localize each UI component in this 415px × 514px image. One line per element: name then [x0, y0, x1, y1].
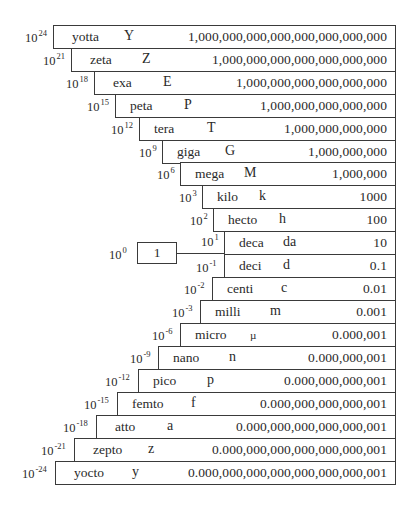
prefix-symbol: h [279, 211, 286, 227]
prefix-row-giga: gigaG1,000,000,000 [162, 140, 396, 164]
unity-box: 1 [137, 242, 177, 264]
exponent-base: 10 [152, 329, 165, 343]
prefix-row-deci: decid0.1 [224, 254, 396, 278]
prefix-name: kilo [217, 189, 238, 205]
prefix-symbol: y [132, 464, 139, 480]
prefix-value: 100 [366, 212, 387, 228]
exponent-power: 3 [193, 188, 197, 198]
prefix-value: 10 [373, 235, 387, 251]
prefix-name: deci [239, 258, 262, 274]
prefix-name: nano [173, 350, 199, 366]
exponent-power: -3 [186, 303, 193, 313]
prefix-value: 1,000,000,000 [308, 144, 387, 160]
exponent-label-micro: 10-6 [152, 326, 173, 344]
exponent-label-zepto: 10-21 [41, 441, 66, 459]
prefix-row-peta: petaP1,000,000,000,000,000 [115, 94, 396, 118]
exponent-base: 10 [157, 168, 170, 182]
exponent-base: 10 [139, 146, 152, 160]
prefix-symbol: Y [124, 28, 134, 44]
prefix-row-hecto: hectoh100 [213, 208, 396, 232]
prefix-row-deca: decada10 [224, 231, 396, 255]
prefix-name: micro [195, 327, 227, 343]
prefix-row-tera: teraT1,000,000,000,000 [139, 117, 396, 141]
exponent-label-exa: 1018 [66, 74, 88, 92]
prefix-name: milli [215, 304, 241, 320]
exponent-power: 21 [57, 51, 66, 61]
prefix-symbol: G [225, 143, 235, 159]
prefix-name: deca [239, 235, 264, 251]
prefix-symbol: c [281, 280, 287, 296]
prefix-symbol: P [184, 97, 192, 113]
exponent-label-mega: 106 [157, 165, 175, 183]
si-prefix-diagram: 100 1 yottaY1,000,000,000,000,000,000,00… [0, 0, 415, 514]
prefix-name: mega [195, 166, 224, 182]
exponent-label-deci: 10-1 [196, 258, 217, 276]
prefix-value: 1000 [360, 189, 387, 205]
exponent-label-peta: 1015 [87, 97, 109, 115]
prefix-name: hecto [228, 212, 257, 228]
exponent-power: -9 [144, 349, 151, 359]
prefix-value: 1,000,000,000,000,000,000,000,000 [188, 29, 387, 45]
prefix-value: 0.000,000,000,000,000,000,001 [212, 442, 387, 458]
prefix-symbol: m [270, 303, 281, 319]
exponent-label-atto: 10-18 [63, 418, 88, 436]
unity-value: 1 [154, 245, 161, 260]
prefix-symbol: d [283, 257, 290, 273]
prefix-row-centi: centic0.01 [212, 277, 396, 301]
exponent-base: 10 [190, 214, 203, 228]
exponent-label-tera: 1012 [111, 120, 133, 138]
exponent-base: 10 [196, 261, 209, 275]
prefix-name: zeta [90, 52, 112, 68]
prefix-name: peta [130, 98, 153, 114]
prefix-symbol: p [207, 372, 214, 388]
prefix-row-kilo: kilok1000 [202, 185, 396, 209]
prefix-value: 1,000,000,000,000,000 [260, 98, 387, 114]
prefix-symbol: da [283, 234, 296, 250]
prefix-name: yocto [74, 465, 104, 481]
exponent-base: 10 [43, 54, 56, 68]
exponent-power: -15 [98, 395, 109, 405]
exponent-base: 10 [84, 398, 97, 412]
prefix-value: 0.000,001 [332, 327, 387, 343]
prefix-row-atto: attoa0.000,000,000,000,000,001 [96, 415, 396, 439]
prefix-value: 0.000,000,000,000,000,001 [236, 419, 387, 435]
prefix-name: yotta [72, 29, 99, 45]
exponent-label-deca: 101 [201, 232, 219, 250]
prefix-value: 0.000,000,001 [308, 350, 387, 366]
prefix-name: atto [115, 419, 135, 435]
prefix-name: pico [153, 373, 176, 389]
exponent-power: -6 [166, 326, 173, 336]
exponent-power: -21 [55, 441, 66, 451]
exponent-base: 10 [22, 467, 35, 481]
exponent-base: 10 [130, 352, 143, 366]
exponent-base: 10 [25, 31, 38, 45]
exponent-power: 24 [39, 28, 48, 38]
prefix-row-zepto: zeptoz0.000,000,000,000,000,000,001 [74, 438, 396, 462]
exponent-power: 0 [123, 245, 127, 255]
prefix-symbol: µ [250, 329, 256, 341]
prefix-symbol: T [207, 120, 216, 136]
exponent-base: 10 [105, 375, 118, 389]
exponent-power: -12 [119, 372, 130, 382]
exponent-label-milli: 10-3 [172, 303, 193, 321]
exponent-label-yocto: 10-24 [22, 464, 47, 482]
prefix-value: 1,000,000,000,000 [284, 121, 387, 137]
exponent-power: -2 [198, 280, 205, 290]
prefix-row-nano: nanon0.000,000,001 [158, 346, 396, 370]
prefix-row-femto: femtof0.000,000,000,000,001 [117, 392, 396, 416]
prefix-name: centi [227, 281, 253, 297]
exponent-label-zeta: 1021 [43, 51, 65, 69]
prefix-value: 0.000,000,000,001 [284, 373, 387, 389]
exponent-label-pico: 10-12 [105, 372, 130, 390]
prefix-value: 1,000,000,000,000,000,000,000 [212, 52, 387, 68]
prefix-value: 0.01 [363, 281, 387, 297]
prefix-symbol: E [163, 74, 172, 90]
prefix-symbol: Z [142, 51, 151, 67]
exponent-base: 10 [66, 77, 79, 91]
exponent-base: 10 [63, 421, 76, 435]
exponent-power: 1 [215, 232, 219, 242]
exponent-base: 10 [111, 123, 124, 137]
prefix-name: tera [154, 121, 174, 137]
exponent-base: 10 [41, 444, 54, 458]
prefix-symbol: k [259, 188, 266, 204]
